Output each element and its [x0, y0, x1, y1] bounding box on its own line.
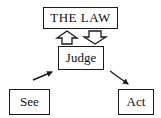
node-act: Act [118, 89, 154, 115]
node-label: THE LAW [50, 10, 111, 26]
node-the-law: THE LAW [43, 7, 118, 29]
arrow-see-to-judge [33, 72, 52, 80]
node-see: See [9, 89, 50, 115]
node-label: See [20, 94, 39, 110]
node-label: Act [127, 94, 146, 110]
hollow-down-arrow-icon [84, 31, 106, 44]
node-judge: Judge [58, 46, 104, 70]
hollow-up-arrow-icon [57, 31, 77, 44]
arrow-judge-to-act [110, 71, 128, 84]
node-label: Judge [66, 50, 96, 66]
